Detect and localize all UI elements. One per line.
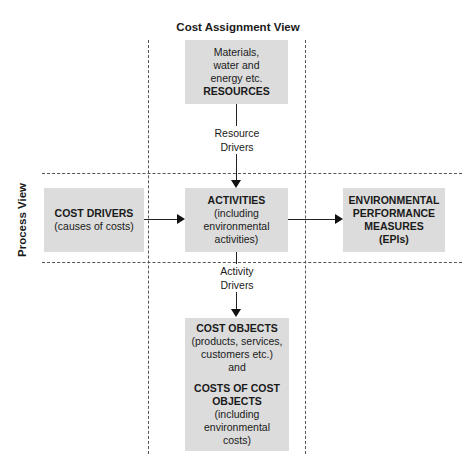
costs-of-cost-objects-heading-1: COSTS OF COST (194, 382, 280, 395)
costs-of-cost-objects-heading-2: OBJECTS (212, 395, 262, 408)
resources-box: Materials, water and energy etc. RESOURC… (185, 40, 288, 104)
cost-objects-box: COST OBJECTS (products, services, custom… (185, 318, 289, 451)
activity-drivers-label: Activity Drivers (210, 264, 264, 292)
process-view-bottom-dashed-line (42, 262, 462, 263)
process-view-title: Process View (16, 183, 28, 257)
cost-drivers-arrowhead-icon (177, 214, 185, 224)
resources-line-1: Materials, (214, 46, 260, 59)
epis-box: ENVIRONMENTAL PERFORMANCE MEASURES (EPIs… (343, 188, 445, 252)
resources-line-3: energy etc. (211, 72, 263, 85)
resource-drivers-label: Resource Drivers (205, 126, 269, 154)
cost-assignment-right-dashed-line (305, 40, 306, 454)
cost-assignment-left-dashed-line (148, 40, 149, 454)
resources-heading: RESOURCES (203, 85, 270, 98)
cost-drivers-sub: (causes of costs) (54, 220, 133, 233)
process-view-top-dashed-line (42, 173, 462, 174)
cost-assignment-view-title: Cost Assignment View (0, 21, 467, 33)
activities-box: ACTIVITIES (including environmental acti… (185, 188, 288, 252)
epis-connector (288, 219, 336, 220)
cost-drivers-connector (144, 219, 178, 220)
activity-drivers-arrowhead-icon (231, 309, 241, 317)
epis-arrowhead-icon (335, 214, 343, 224)
resource-drivers-arrowhead-icon (231, 180, 241, 188)
cost-drivers-box: COST DRIVERS (causes of costs) (44, 188, 144, 252)
cost-objects-joiner: and (228, 361, 246, 374)
cost-drivers-heading: COST DRIVERS (55, 207, 134, 220)
cost-objects-heading: COST OBJECTS (196, 322, 278, 335)
resources-line-2: water and (213, 59, 259, 72)
activities-heading: ACTIVITIES (208, 194, 266, 207)
